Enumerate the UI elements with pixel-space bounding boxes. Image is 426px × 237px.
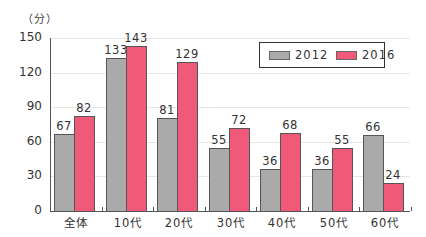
x-tick-label: 60代 — [359, 214, 411, 230]
gridline — [50, 38, 410, 39]
y-tick-label: 150 — [16, 30, 42, 44]
bar-2016 — [177, 62, 198, 212]
value-label: 68 — [275, 118, 305, 132]
bar-2016 — [280, 133, 301, 212]
x-tick-mark — [308, 207, 309, 211]
y-axis-unit-label: （分） — [22, 10, 58, 26]
legend-swatch-2016 — [336, 51, 357, 60]
value-label: 129 — [172, 47, 202, 61]
value-label: 55 — [327, 133, 357, 147]
value-label: 24 — [378, 168, 408, 182]
x-tick-label: 30代 — [205, 214, 257, 230]
value-label: 66 — [358, 120, 388, 134]
bar-2012 — [260, 169, 281, 212]
value-label: 82 — [69, 101, 99, 115]
bar-2016 — [332, 148, 353, 212]
bar-2012 — [157, 118, 178, 212]
bar-2016 — [383, 183, 404, 212]
legend-label-2012: 2012 — [295, 48, 328, 62]
x-tick-mark — [411, 207, 412, 211]
x-tick-mark — [102, 207, 103, 211]
x-tick-label: 20代 — [153, 214, 205, 230]
value-label: 72 — [224, 113, 254, 127]
y-tick-label: 120 — [16, 65, 42, 79]
x-tick-label: 50代 — [308, 214, 360, 230]
legend-swatch-2012 — [269, 51, 290, 60]
y-tick-label: 30 — [16, 168, 42, 182]
x-tick-mark — [359, 207, 360, 211]
y-tick-label: 60 — [16, 134, 42, 148]
bar-2016 — [74, 116, 95, 212]
x-tick-mark — [153, 207, 154, 211]
x-tick-mark — [205, 207, 206, 211]
bar-2012 — [312, 169, 333, 212]
x-tick-mark — [256, 207, 257, 211]
value-label: 143 — [121, 31, 151, 45]
bar-2016 — [126, 46, 147, 212]
bar-2012 — [54, 134, 75, 212]
legend-label-2016: 2016 — [362, 48, 395, 62]
x-tick-label: 全体 — [50, 214, 102, 230]
gridline — [50, 107, 410, 108]
bar-2016 — [229, 128, 250, 212]
bar-2012 — [209, 148, 230, 212]
x-tick-label: 40代 — [256, 214, 308, 230]
bar-2012 — [106, 58, 127, 212]
y-tick-label: 90 — [16, 99, 42, 113]
y-tick-label: 0 — [16, 203, 42, 217]
legend: 2012 2016 — [259, 42, 385, 68]
gridline — [50, 73, 410, 74]
x-tick-label: 10代 — [102, 214, 154, 230]
